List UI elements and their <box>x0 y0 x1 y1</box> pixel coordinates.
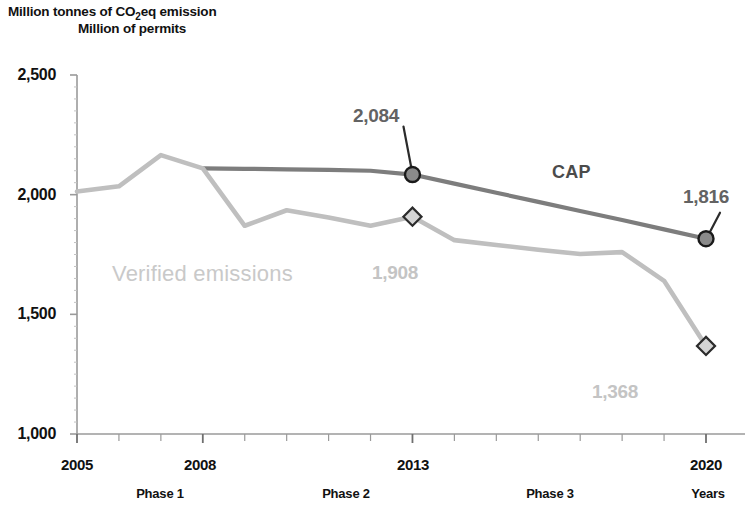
plot-area <box>0 0 749 509</box>
annotation-leader-lines <box>403 127 720 234</box>
data-point-markers <box>403 167 715 355</box>
chart-container: Million tonnes of CO2eq emission Million… <box>0 0 749 509</box>
axis-lines <box>70 75 745 443</box>
data-series-lines <box>77 155 706 346</box>
